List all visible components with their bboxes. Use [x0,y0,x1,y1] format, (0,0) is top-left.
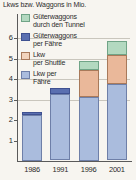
legend-swatch-icon [21,14,30,22]
y-tick-label: 2 [9,116,13,124]
bar-segment[interactable] [79,97,99,160]
legend-label: Güterwaggonsper Fähre [33,32,77,48]
legend-item[interactable]: Güterwaggonsdurch den Tunnel [21,13,85,29]
bar-segment[interactable] [107,55,127,84]
y-tick-label: 3 [9,96,13,104]
legend-swatch-icon [21,33,30,41]
bar-segment[interactable] [107,41,127,55]
bar-segment[interactable] [22,115,42,160]
bar-segment[interactable] [50,94,70,161]
bar-segment[interactable] [79,70,99,97]
y-tick-label: 6 [9,34,13,42]
y-tick-mark [14,38,18,39]
y-tick-label: 5 [9,55,13,63]
bar-2001[interactable] [107,14,127,162]
legend-label: Lkwper Shuttle [33,51,65,67]
legend-swatch-icon [21,71,30,79]
y-tick-label: 1 [9,137,13,145]
y-tick-mark [14,120,18,121]
legend-label: Lkw perFähre [33,70,56,86]
y-tick-mark [14,79,18,80]
y-tick-label: 4 [9,75,13,83]
y-tick-mark [14,141,18,142]
x-axis-label-2001: 2001 [100,165,134,174]
bar-segment[interactable] [50,88,70,94]
legend-label: Güterwaggonsdurch den Tunnel [33,13,85,29]
bar-segment[interactable] [79,61,99,70]
legend-item[interactable]: Lkw perFähre [21,70,56,86]
bar-1996[interactable] [79,14,99,162]
bar-segment[interactable] [107,84,127,161]
chart-container: Lkws bzw. Waggons in Mio. 123456 1986199… [0,0,136,180]
bar-segment[interactable] [22,112,42,115]
chart-title: Lkws bzw. Waggons in Mio. [3,1,86,8]
legend-item[interactable]: Lkwper Shuttle [21,51,65,67]
legend-item[interactable]: Güterwaggonsper Fähre [21,32,77,48]
legend-swatch-icon [21,52,30,60]
y-tick-mark [14,59,18,60]
y-tick-mark [14,100,18,101]
